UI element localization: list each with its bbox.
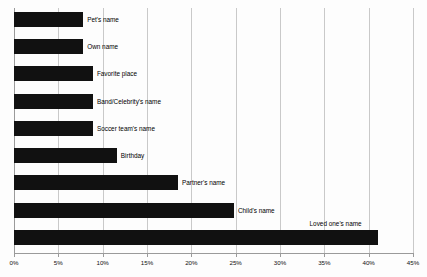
bar[interactable] xyxy=(14,66,93,81)
bar-label: Soccer team's name xyxy=(93,121,155,136)
bar[interactable] xyxy=(14,12,83,27)
bar-label: Child's name xyxy=(234,203,275,218)
x-tick-label: 30% xyxy=(274,259,286,266)
bar[interactable] xyxy=(14,94,93,109)
x-tick-label: 40% xyxy=(362,259,374,266)
x-axis-line xyxy=(14,253,413,254)
bar-row: Loved one's name xyxy=(14,226,413,253)
x-tick xyxy=(14,253,15,257)
x-tick-label: 35% xyxy=(318,259,330,266)
x-tick xyxy=(369,253,370,257)
x-tick xyxy=(103,253,104,257)
bar-label: Own name xyxy=(83,39,118,54)
x-tick xyxy=(147,253,148,257)
x-tick xyxy=(236,253,237,257)
bar-label: Pet's name xyxy=(83,12,119,27)
x-tick-label: 20% xyxy=(185,259,197,266)
plot-area: Pet's nameOwn nameFavorite placeBand/Cel… xyxy=(14,8,413,253)
gridline-45% xyxy=(413,8,414,253)
x-tick xyxy=(191,253,192,257)
bar-chart: Pet's nameOwn nameFavorite placeBand/Cel… xyxy=(0,0,427,277)
bar-label: Band/Celebrity's name xyxy=(93,94,161,109)
bar-label: Favorite place xyxy=(93,66,137,81)
bar-row: Favorite place xyxy=(14,62,413,89)
bar-row: Partner's name xyxy=(14,171,413,198)
x-tick-label: 25% xyxy=(229,259,241,266)
x-tick xyxy=(324,253,325,257)
bar[interactable] xyxy=(14,230,378,245)
bar-row: Pet's name xyxy=(14,8,413,35)
bar-row: Band/Celebrity's name xyxy=(14,90,413,117)
x-tick-label: 15% xyxy=(141,259,153,266)
x-tick-label: 5% xyxy=(54,259,63,266)
bar-row: Birthday xyxy=(14,144,413,171)
bar-label: Birthday xyxy=(117,148,144,163)
bar-row: Soccer team's name xyxy=(14,117,413,144)
bar-label: Partner's name xyxy=(178,175,225,190)
bar-label: Loved one's name xyxy=(310,218,362,229)
x-tick xyxy=(413,253,414,257)
bar[interactable] xyxy=(14,39,83,54)
bar[interactable] xyxy=(14,203,234,218)
x-tick-label: 10% xyxy=(96,259,108,266)
bar[interactable] xyxy=(14,175,178,190)
bar[interactable] xyxy=(14,148,117,163)
bar-row: Own name xyxy=(14,35,413,62)
bar[interactable] xyxy=(14,121,93,136)
x-tick xyxy=(280,253,281,257)
x-tick-label: 45% xyxy=(407,259,419,266)
x-tick xyxy=(58,253,59,257)
x-tick-label: 0% xyxy=(10,259,19,266)
